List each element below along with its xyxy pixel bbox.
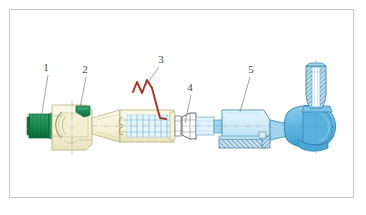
callout-3: 3 bbox=[146, 53, 164, 85]
callout-1-leader bbox=[42, 75, 48, 113]
tapered-rod-shaft bbox=[92, 110, 120, 142]
callout-5-leader bbox=[240, 77, 250, 112]
callout-2-leader bbox=[80, 77, 86, 108]
callout-1-label: 1 bbox=[43, 61, 49, 73]
bellows-boot-section bbox=[119, 110, 175, 142]
callout-5: 5 bbox=[240, 63, 254, 112]
technical-drawing: 1 2 3 4 5 bbox=[0, 0, 366, 215]
callout-3-leader bbox=[146, 67, 159, 85]
threaded-taper-stud bbox=[306, 63, 326, 108]
callout-3-label: 3 bbox=[158, 53, 164, 65]
callout-2: 2 bbox=[80, 63, 88, 108]
hex-lock-nut bbox=[175, 113, 196, 139]
callout-5-label: 5 bbox=[248, 63, 254, 75]
figure-root: 1 2 3 4 5 bbox=[0, 0, 366, 215]
callout-4-label: 4 bbox=[187, 81, 193, 93]
green-threaded-end-plug bbox=[27, 112, 55, 140]
callout-1: 1 bbox=[42, 61, 49, 113]
callout-2-label: 2 bbox=[82, 63, 88, 75]
adjuster-sleeve bbox=[196, 117, 222, 135]
